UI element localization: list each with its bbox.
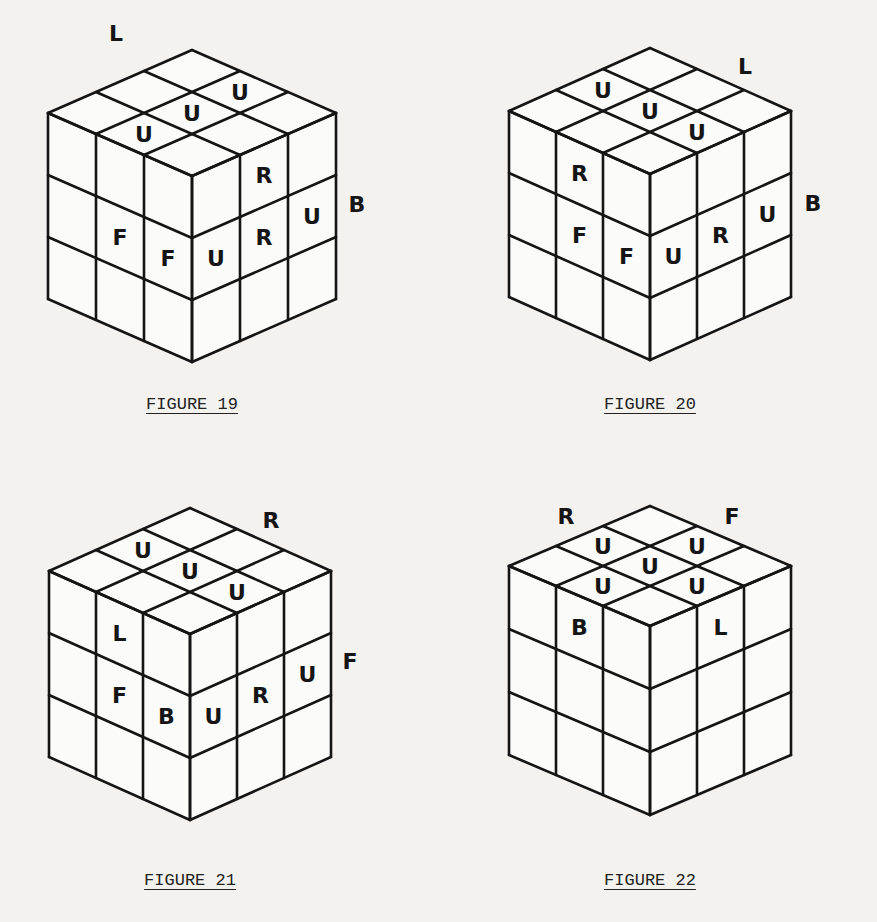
figure-caption: FIGURE 22	[604, 871, 696, 890]
sticker-label-left: F	[112, 683, 127, 708]
sticker-label-top: U	[641, 554, 659, 579]
sticker-label-right: U	[759, 202, 777, 227]
sticker-label-right: U	[303, 204, 321, 229]
sticker-label-left: F	[572, 223, 587, 248]
sticker-label-top: U	[641, 99, 659, 124]
sticker-label-top: U	[231, 80, 249, 105]
figure-figure-21: UUULFBURURFFIGURE 21	[0, 460, 420, 920]
face-orientation-label: R	[263, 508, 280, 533]
sticker-label-top: U	[181, 559, 199, 584]
figure-caption: FIGURE 19	[146, 395, 238, 414]
sticker-label-top: U	[183, 101, 201, 126]
figure-figure-22: UUUUUBLRFFIGURE 22	[480, 460, 877, 920]
face-orientation-label: F	[724, 504, 739, 529]
sticker-label-top: U	[594, 574, 612, 599]
rubiks-cube-drawing: UUURFFURULB	[480, 0, 877, 460]
sticker-label-top: U	[688, 574, 706, 599]
sticker-label-top: U	[594, 78, 612, 103]
sticker-label-top: U	[134, 538, 152, 563]
sticker-label-right: R	[712, 223, 729, 248]
face-orientation-label: F	[342, 649, 357, 674]
sticker-label-right: U	[205, 704, 223, 729]
sticker-label-left: F	[160, 246, 175, 271]
sticker-label-right: U	[665, 244, 683, 269]
sticker-label-top: U	[688, 534, 706, 559]
rubiks-cube-drawing: UUUFFRURULB	[0, 0, 420, 460]
sticker-label-right: L	[713, 615, 727, 640]
sticker-label-left: B	[158, 704, 175, 729]
face-orientation-label: L	[738, 54, 752, 79]
figure-caption: FIGURE 21	[144, 871, 236, 890]
figure-figure-20: UUURFFURULBFIGURE 20	[480, 0, 877, 460]
sticker-label-right: R	[256, 225, 273, 250]
sticker-label-top: U	[594, 534, 612, 559]
face-orientation-label: B	[805, 191, 822, 216]
sticker-label-left: R	[571, 161, 588, 186]
sticker-label-top: U	[135, 122, 153, 147]
sticker-label-right: U	[299, 662, 317, 687]
sticker-label-left: L	[112, 621, 126, 646]
figure-figure-19: UUUFFRURULBFIGURE 19	[0, 0, 420, 460]
figure-caption: FIGURE 20	[604, 395, 696, 414]
sticker-label-left: B	[571, 615, 588, 640]
sticker-label-left: F	[112, 225, 127, 250]
rubiks-cube-drawing: UUUUUBLRF	[480, 460, 877, 920]
rubiks-cube-drawing: UUULFBURURF	[0, 460, 420, 920]
sticker-label-left: F	[619, 244, 634, 269]
sticker-label-right: R	[256, 163, 273, 188]
face-orientation-label: L	[109, 21, 123, 46]
sticker-label-top: U	[688, 120, 706, 145]
sticker-label-right: R	[252, 683, 269, 708]
face-orientation-label: B	[349, 192, 366, 217]
face-orientation-label: R	[558, 504, 575, 529]
sticker-label-right: U	[207, 246, 225, 271]
sticker-label-top: U	[228, 580, 246, 605]
